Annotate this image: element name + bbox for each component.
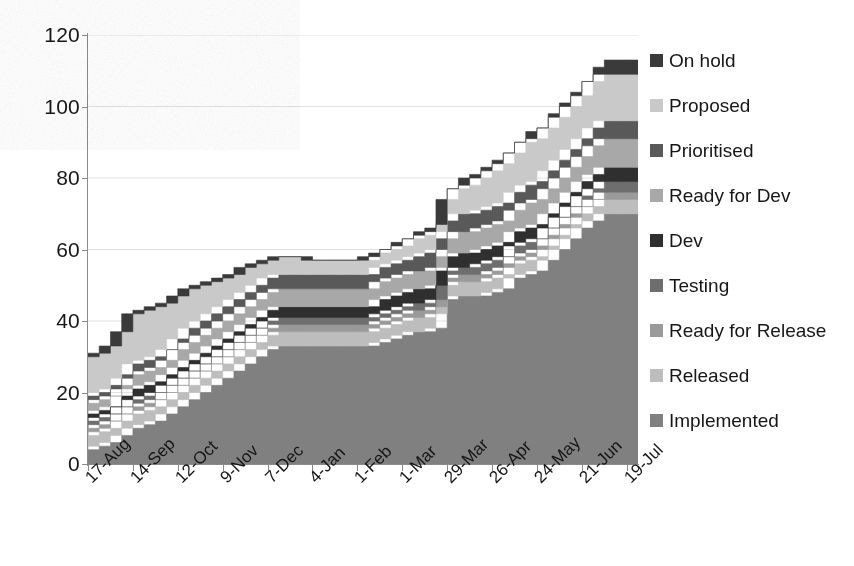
x-tick-label: 12-Oct [172,437,221,486]
legend-swatch-icon [650,279,663,292]
legend-swatch-icon [650,144,663,157]
legend-item-label: Dev [669,231,703,251]
legend-item-implemented[interactable]: Implemented [650,398,850,443]
x-tick-label: 26-Apr [486,437,535,486]
legend-item-label: Released [669,366,749,386]
x-tick-label: 29-Mar [441,435,492,486]
legend-swatch-icon [650,189,663,202]
legend-item-ready-for-release[interactable]: Ready for Release [650,308,850,353]
x-tick-label: 4-Jan [306,444,349,487]
legend-swatch-icon [650,99,663,112]
x-tick-label: 1-Feb [351,442,395,486]
legend-item-dev[interactable]: Dev [650,218,850,263]
legend-item-label: Testing [669,276,729,296]
legend-item-prioritised[interactable]: Prioritised [650,128,850,173]
x-tick-label: 24-May [531,433,584,486]
legend-swatch-icon [650,414,663,427]
legend-swatch-icon [650,54,663,67]
legend-swatch-icon [650,234,663,247]
legend-swatch-icon [650,369,663,382]
x-tick-label: 9-Nov [217,442,262,487]
legend-item-ready-for-dev[interactable]: Ready for Dev [650,173,850,218]
legend-item-testing[interactable]: Testing [650,263,850,308]
legend-item-label: Proposed [669,96,750,116]
legend-item-label: On hold [669,51,736,71]
legend-swatch-icon [650,324,663,337]
legend-item-label: Implemented [669,411,779,431]
legend-item-label: Ready for Release [669,321,826,341]
legend-item-label: Ready for Dev [669,186,790,206]
legend-item-proposed[interactable]: Proposed [650,83,850,128]
chart-legend: On holdProposedPrioritisedReady for DevD… [650,38,850,443]
legend-item-released[interactable]: Released [650,353,850,398]
cumulative-flow-chart: 120100806040200 17-Aug14-Sep12-Oct9-Nov7… [0,0,854,566]
legend-item-label: Prioritised [669,141,753,161]
legend-item-on-hold[interactable]: On hold [650,38,850,83]
x-tick-label: 1-Mar [396,442,440,486]
x-tick-label: 17-Aug [82,435,134,487]
x-tick-label: 21-Jun [576,437,626,487]
x-tick-label: 14-Sep [127,435,179,487]
